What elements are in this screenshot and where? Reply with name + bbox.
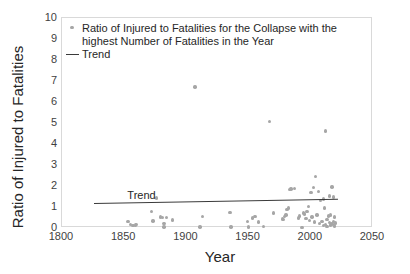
data-point xyxy=(193,85,196,88)
data-point xyxy=(309,191,312,194)
y-axis-title: Ratio of Injured to Fatalities xyxy=(0,0,34,274)
legend-item: Ratio of Injured to Fatalities for the C… xyxy=(62,22,368,47)
data-point xyxy=(162,225,165,228)
legend-item: Trend xyxy=(62,48,368,61)
data-point xyxy=(247,225,250,228)
data-point xyxy=(333,215,336,218)
data-point xyxy=(324,129,327,132)
data-point xyxy=(228,211,231,214)
data-point xyxy=(317,190,320,193)
y-tick-label: 5 xyxy=(35,117,57,128)
x-tick-label: 1850 xyxy=(101,231,145,242)
data-point xyxy=(150,210,153,213)
x-tick-label: 1800 xyxy=(39,231,83,242)
x-axis-title: Year xyxy=(60,248,380,265)
x-tick-label: 2000 xyxy=(288,231,332,242)
data-point xyxy=(257,220,260,223)
data-point xyxy=(287,206,290,209)
data-point xyxy=(229,225,232,228)
data-point xyxy=(298,214,301,217)
x-axis-tick-labels: 180018501900195020002050 xyxy=(61,231,372,247)
data-point xyxy=(333,224,336,227)
y-tick-label: 7 xyxy=(35,75,57,86)
data-point xyxy=(293,187,296,190)
y-tick-label: 10 xyxy=(35,12,57,23)
data-point xyxy=(201,215,204,218)
data-point xyxy=(314,175,317,178)
data-point xyxy=(198,225,201,228)
data-point xyxy=(307,205,310,208)
data-point xyxy=(135,223,138,226)
y-tick-label: 8 xyxy=(35,54,57,65)
y-tick-label: 1 xyxy=(35,201,57,212)
data-point xyxy=(262,225,265,228)
data-point xyxy=(310,215,313,218)
data-point xyxy=(308,219,311,222)
scatter-chart: Ratio of Injured to Fatalities 012345678… xyxy=(0,0,410,274)
data-point xyxy=(161,216,164,219)
y-tick-label: 4 xyxy=(35,138,57,149)
y-tick-label: 3 xyxy=(35,159,57,170)
data-point xyxy=(151,219,154,222)
data-point xyxy=(268,120,271,123)
data-point xyxy=(253,215,256,218)
data-point xyxy=(272,211,275,214)
data-point xyxy=(312,186,315,189)
data-point xyxy=(303,212,306,215)
data-point xyxy=(300,226,303,229)
data-point xyxy=(246,220,249,223)
data-point xyxy=(284,213,287,216)
legend-dot-icon xyxy=(70,26,73,29)
legend-label: Ratio of Injured to Fatalities for the C… xyxy=(82,22,368,47)
trend-inline-label: Trend xyxy=(127,189,155,201)
data-point xyxy=(323,206,326,209)
legend-line-icon xyxy=(66,54,79,55)
data-point xyxy=(313,220,316,223)
data-point xyxy=(171,218,174,221)
data-point xyxy=(162,222,165,225)
chart-legend: Ratio of Injured to Fatalities for the C… xyxy=(62,22,368,62)
data-point xyxy=(165,216,168,219)
legend-label: Trend xyxy=(82,48,110,61)
y-axis-tick-labels: 012345678910 xyxy=(33,17,57,227)
data-point xyxy=(328,194,331,197)
data-point xyxy=(315,213,318,216)
data-point xyxy=(282,218,285,221)
data-point xyxy=(334,221,337,224)
data-point xyxy=(330,185,333,188)
x-tick-label: 1900 xyxy=(163,231,207,242)
y-tick-label: 6 xyxy=(35,96,57,107)
x-tick-label: 1950 xyxy=(226,231,270,242)
x-tick-label: 2050 xyxy=(350,231,394,242)
data-point xyxy=(305,210,308,213)
y-tick-label: 2 xyxy=(35,180,57,191)
y-tick-label: 9 xyxy=(35,33,57,44)
data-point xyxy=(329,213,332,216)
